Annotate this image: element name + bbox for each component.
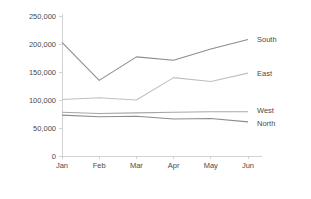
- x-tick-label: Jan: [56, 161, 68, 170]
- series-label-west: West: [257, 106, 275, 115]
- y-tick-label: 100,000: [29, 96, 56, 105]
- x-tick-label: Jun: [242, 161, 254, 170]
- y-tick-label: 200,000: [29, 40, 56, 49]
- x-tick-label: May: [204, 161, 218, 170]
- y-tick-label: 250,000: [29, 12, 56, 21]
- y-axis: 050,000100,000150,000200,000250,000: [29, 12, 62, 161]
- x-tick-label: Feb: [93, 161, 106, 170]
- line-chart: 050,000100,000150,000200,000250,000 JanF…: [0, 0, 311, 199]
- chart-canvas: 050,000100,000150,000200,000250,000 JanF…: [0, 0, 311, 199]
- series-label-south: South: [257, 35, 277, 44]
- y-tick-label: 0: [52, 152, 56, 161]
- y-tick-label: 150,000: [29, 68, 56, 77]
- series-label-north: North: [257, 119, 275, 128]
- series-line-south: [62, 40, 248, 81]
- x-tick-label: Mar: [130, 161, 143, 170]
- x-axis: JanFebMarAprMayJun: [56, 156, 262, 170]
- series-line-west: [62, 112, 248, 114]
- series-line-east: [62, 73, 248, 100]
- series-lines: [62, 40, 248, 122]
- y-tick-label: 50,000: [33, 124, 56, 133]
- series-label-east: East: [257, 69, 273, 78]
- series-labels: SouthEastWestNorth: [257, 35, 277, 128]
- series-line-north: [62, 115, 248, 122]
- x-tick-label: Apr: [168, 161, 180, 170]
